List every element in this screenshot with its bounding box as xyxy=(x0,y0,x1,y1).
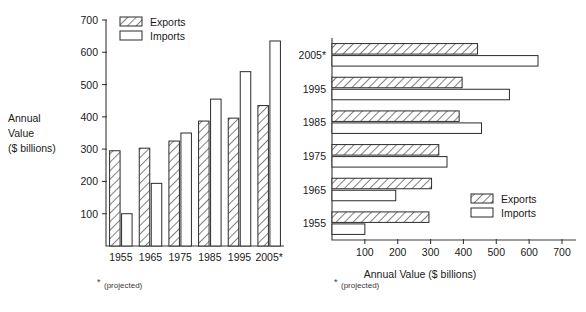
legend-left: Exports Imports xyxy=(120,16,186,42)
legend-label-exports: Exports xyxy=(150,16,186,28)
legend-label-imports: Imports xyxy=(501,207,536,219)
footnote-marker-left: * xyxy=(97,277,101,287)
bar-exports-1975 xyxy=(169,141,180,246)
y-tick-label-1995: 1995 xyxy=(303,83,327,95)
legend-label-imports: Imports xyxy=(150,30,185,42)
bar-imports-1975 xyxy=(332,157,447,168)
right-axes xyxy=(332,38,576,240)
bar-exports-1965 xyxy=(332,178,432,189)
footnote-text-left: (projected) xyxy=(104,281,143,290)
bar-exports-1975 xyxy=(332,145,439,156)
y-tick-label: 500 xyxy=(80,79,98,91)
x-tick-label: 500 xyxy=(488,246,506,258)
x-tick-label: 200 xyxy=(389,246,407,258)
bar-exports-2005 xyxy=(258,106,269,246)
x-tick-label-1975: 1975 xyxy=(168,251,192,263)
y-axis-label-line-1: Annual xyxy=(8,112,41,124)
y-axis-label-line-2: Value xyxy=(8,127,34,139)
bar-exports-1955 xyxy=(110,151,121,246)
y-tick-label: 100 xyxy=(80,208,98,220)
bar-exports-1995 xyxy=(228,118,239,246)
right-plot-area: 1002003004005006007001955196519751985199… xyxy=(299,38,576,258)
bar-exports-1955 xyxy=(332,212,429,223)
y-tick-label: 600 xyxy=(80,46,98,58)
footnote-left: * (projected) xyxy=(97,277,143,290)
x-axis-label-group: Annual Value ($ billions) xyxy=(364,268,476,280)
left-axes xyxy=(106,20,284,246)
y-tick-label-1975: 1975 xyxy=(303,150,327,162)
footnote-text-right: (projected) xyxy=(341,281,380,290)
bar-exports-2005 xyxy=(332,44,478,55)
x-tick-label: 700 xyxy=(553,246,571,258)
bar-imports-1995 xyxy=(240,72,251,246)
bar-exports-1965 xyxy=(139,148,150,246)
x-tick-label: 600 xyxy=(520,246,538,258)
y-tick-label-1955: 1955 xyxy=(303,217,327,229)
y-tick-label: 700 xyxy=(80,14,98,26)
y-axis-label: Annual Value ($ billions) xyxy=(8,112,56,154)
legend-swatch-exports xyxy=(120,17,142,26)
bar-imports-1985 xyxy=(332,123,482,133)
legend-swatch-imports xyxy=(120,31,142,40)
legend-swatch-exports xyxy=(471,194,493,203)
bar-imports-1995 xyxy=(332,89,509,100)
y-tick-label-2005: 2005* xyxy=(299,49,326,61)
x-tick-label-1995: 1995 xyxy=(228,251,252,263)
bar-imports-1965 xyxy=(332,190,396,201)
x-tick-label: 400 xyxy=(455,246,473,258)
y-tick-label: 200 xyxy=(80,175,98,187)
x-tick-label-1965: 1965 xyxy=(139,251,163,263)
legend-right: Exports Imports xyxy=(471,193,537,219)
y-tick-label: 300 xyxy=(80,143,98,155)
x-tick-label-1955: 1955 xyxy=(109,251,133,263)
bar-imports-1955 xyxy=(122,214,133,246)
x-axis-label: Annual Value ($ billions) xyxy=(364,268,476,280)
chart-figure: Annual Value ($ billions) 10020030040050… xyxy=(0,0,586,312)
bar-imports-1975 xyxy=(181,133,192,246)
left-plot-area: 1002003004005006007001955196519751985199… xyxy=(80,14,284,263)
bar-imports-1985 xyxy=(211,99,222,246)
bar-exports-1985 xyxy=(199,121,210,246)
bar-exports-1995 xyxy=(332,77,462,88)
x-tick-label: 300 xyxy=(422,246,440,258)
y-axis-label-line-3: ($ billions) xyxy=(8,142,56,154)
x-tick-label-1985: 1985 xyxy=(198,251,222,263)
bar-imports-1965 xyxy=(151,183,162,246)
y-tick-label-1965: 1965 xyxy=(303,184,327,196)
x-tick-label-2005: 2005* xyxy=(255,251,282,263)
legend-label-exports: Exports xyxy=(501,193,537,205)
y-tick-label: 400 xyxy=(80,111,98,123)
footnote-marker-right: * xyxy=(334,277,338,287)
x-tick-label: 100 xyxy=(356,246,374,258)
bar-exports-1985 xyxy=(332,111,459,122)
y-tick-label-1985: 1985 xyxy=(303,116,327,128)
bar-imports-2005 xyxy=(270,41,281,246)
horizontal-bar-chart: 1002003004005006007001955196519751985199… xyxy=(286,0,586,312)
vertical-bar-chart: Annual Value ($ billions) 10020030040050… xyxy=(0,0,300,312)
legend-swatch-imports xyxy=(471,208,493,217)
bar-imports-1955 xyxy=(332,224,365,235)
bar-imports-2005 xyxy=(332,56,538,66)
